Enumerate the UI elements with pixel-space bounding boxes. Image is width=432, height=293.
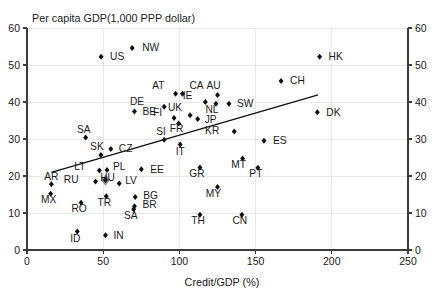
data-point-label: TR	[97, 197, 111, 208]
data-point-label: KR	[205, 125, 219, 136]
scatter-plot: 0010102020303040405050606005010015020025…	[0, 0, 432, 293]
data-marker	[172, 115, 177, 121]
data-point-label: BR	[142, 199, 156, 210]
data-marker	[317, 54, 322, 60]
data-point-label: FI	[153, 107, 162, 118]
y-tick-label-left: 50	[8, 59, 20, 71]
data-point-label: AT	[152, 80, 164, 91]
y-tick-label-left: 0	[14, 244, 20, 256]
data-point-label: PL	[113, 161, 126, 172]
data-point-label: CN	[233, 215, 248, 226]
data-point-label: LT	[74, 161, 85, 172]
data-point-label: SA	[77, 124, 91, 135]
data-marker	[215, 92, 220, 98]
y-tick-label-right: 0	[415, 244, 421, 256]
data-point-label: MY	[206, 188, 221, 199]
x-tick-label: 200	[323, 255, 341, 267]
data-marker	[117, 180, 122, 186]
data-point-label: SI	[156, 126, 166, 137]
data-point-label: RU	[64, 174, 79, 185]
y-tick-label-left: 40	[8, 96, 20, 108]
data-point-label: SA	[124, 210, 138, 221]
data-marker	[108, 146, 113, 152]
data-point-label: NW	[142, 42, 159, 53]
data-point-label: JP	[205, 114, 217, 125]
y-tick-label-left: 60	[8, 22, 20, 34]
data-point-label: FR	[170, 123, 184, 134]
data-point-label: PT	[249, 168, 262, 179]
data-marker	[279, 78, 284, 84]
data-marker	[232, 129, 237, 135]
data-point-label: GR	[189, 168, 204, 179]
data-marker	[99, 54, 104, 60]
data-marker	[93, 179, 98, 185]
data-marker	[162, 104, 167, 110]
chart-title: Per capita GDP(1,000 PPP dollar)	[32, 12, 195, 24]
regression-line	[51, 95, 318, 172]
data-point-label: AR	[44, 171, 58, 182]
data-point-label: IE	[183, 90, 193, 101]
data-point-label: SW	[237, 98, 254, 109]
data-point-label: IN	[113, 230, 123, 241]
data-point-label: HU	[100, 172, 115, 183]
data-point-label: ES	[273, 135, 287, 146]
x-tick-label: 250	[399, 255, 417, 267]
trend-line	[51, 95, 318, 172]
data-point-label: AU	[206, 80, 220, 91]
data-point-label: LV	[125, 175, 137, 186]
x-tick-label: 0	[24, 255, 30, 267]
data-marker	[188, 112, 193, 118]
data-point-label: US	[110, 51, 124, 62]
data-marker	[49, 181, 54, 187]
data-point-label: EE	[150, 164, 164, 175]
data-marker	[103, 232, 108, 238]
y-tick-label-right: 20	[415, 170, 427, 182]
scatter-chart-container: 0010102020303040405050606005010015020025…	[0, 0, 432, 293]
data-marker	[173, 91, 178, 97]
data-point-label: ID	[70, 233, 80, 244]
x-tick-label: 50	[97, 255, 109, 267]
x-tick-label: 100	[171, 255, 189, 267]
data-point-label: MT	[231, 159, 246, 170]
y-tick-label-right: 40	[415, 96, 427, 108]
y-tick-label-right: 50	[415, 59, 427, 71]
data-marker	[130, 45, 135, 51]
data-marker	[132, 109, 137, 115]
data-marker	[139, 166, 144, 172]
data-marker	[162, 137, 167, 143]
data-point-label: CZ	[119, 143, 133, 154]
data-point-label: MX	[41, 194, 56, 205]
y-tick-label-left: 10	[8, 207, 20, 219]
tick-labels: 0010102020303040405050606005010015020025…	[8, 22, 427, 267]
data-point-label: IT	[176, 146, 185, 157]
tick-marks	[23, 28, 412, 254]
gridlines	[27, 28, 408, 250]
x-axis-title: Credit/GDP (%)	[185, 276, 260, 288]
y-tick-label-left: 30	[8, 133, 20, 145]
y-tick-label-left: 20	[8, 170, 20, 182]
data-point-label: RO	[71, 203, 86, 214]
data-point-label: TH	[191, 215, 205, 226]
data-marker	[315, 109, 320, 115]
data-marker	[195, 116, 200, 122]
y-tick-label-right: 30	[415, 133, 427, 145]
data-point-label: SK	[90, 141, 104, 152]
x-tick-label: 150	[247, 255, 265, 267]
data-point-label: DK	[326, 107, 340, 118]
data-point-label: CH	[290, 75, 305, 86]
data-marker	[133, 194, 138, 200]
data-marker	[83, 135, 88, 141]
data-point-label: HK	[329, 51, 343, 62]
data-point-label: UK	[168, 102, 182, 113]
y-tick-label-right: 10	[415, 207, 427, 219]
y-tick-label-right: 60	[415, 22, 427, 34]
